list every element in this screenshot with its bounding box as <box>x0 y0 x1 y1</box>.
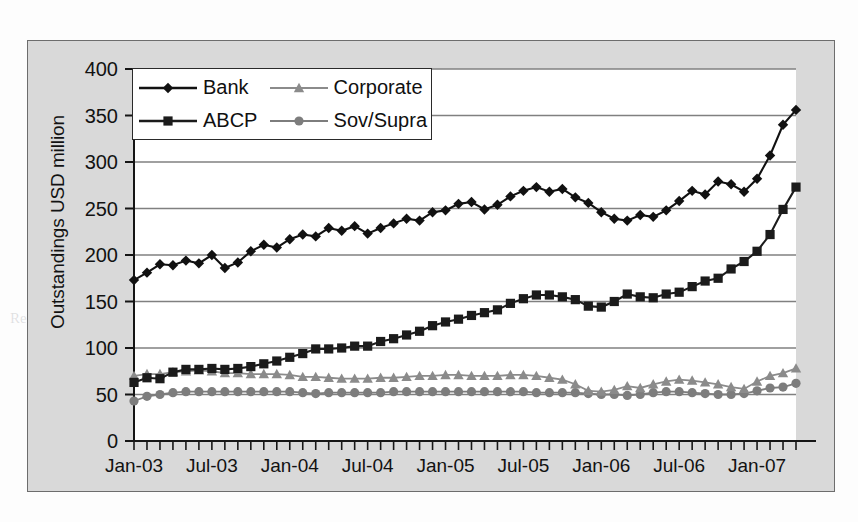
data-marker <box>311 389 320 398</box>
data-marker <box>493 305 502 314</box>
data-marker <box>272 387 281 396</box>
y-tick-label: 200 <box>48 244 118 267</box>
data-marker <box>649 293 658 302</box>
data-marker <box>163 82 173 92</box>
x-tick-label: Jul-03 <box>186 455 238 477</box>
y-tick-label: 250 <box>48 197 118 220</box>
data-marker <box>765 383 774 392</box>
data-marker <box>714 274 723 283</box>
data-marker <box>350 388 359 397</box>
data-marker <box>376 388 385 397</box>
data-marker <box>506 387 515 396</box>
y-tick-label: 0 <box>48 430 118 453</box>
data-marker <box>441 317 450 326</box>
data-marker <box>259 387 268 396</box>
data-marker <box>467 387 476 396</box>
data-marker <box>467 311 476 320</box>
y-tick-label: 50 <box>48 383 118 406</box>
data-marker <box>597 302 606 311</box>
data-marker <box>701 389 710 398</box>
data-marker <box>246 362 255 371</box>
data-marker <box>610 297 619 306</box>
data-marker <box>181 365 190 374</box>
data-marker <box>155 390 164 399</box>
data-marker <box>415 387 424 396</box>
data-marker <box>480 387 489 396</box>
data-marker <box>493 387 502 396</box>
data-marker <box>675 387 684 396</box>
data-marker <box>545 290 554 299</box>
circle-marker-icon <box>268 112 330 130</box>
data-marker <box>220 387 229 396</box>
data-marker <box>636 292 645 301</box>
data-marker <box>623 391 632 400</box>
data-marker <box>519 387 528 396</box>
data-marker <box>272 356 281 365</box>
x-tick-label: Jan-06 <box>572 455 630 477</box>
data-marker <box>181 387 190 396</box>
y-tick-label: 300 <box>48 151 118 174</box>
data-marker <box>337 343 346 352</box>
data-marker <box>714 390 723 399</box>
data-marker <box>168 388 177 397</box>
chart-legend: BankCorporateABCPSov/Supra <box>132 68 432 140</box>
data-marker <box>571 388 580 397</box>
data-marker <box>142 392 151 401</box>
data-marker <box>246 387 255 396</box>
data-marker <box>311 344 320 353</box>
data-marker <box>389 334 398 343</box>
legend-entry-abcp: ABCP <box>137 109 268 132</box>
data-marker <box>415 327 424 336</box>
x-tick-label: Jan-03 <box>105 455 163 477</box>
x-tick-label: Jul-04 <box>342 455 394 477</box>
data-marker <box>584 302 593 311</box>
data-marker <box>752 386 761 395</box>
data-marker <box>688 282 697 291</box>
page-root: structure may not attract... because the… <box>0 0 858 522</box>
data-marker <box>701 276 710 285</box>
data-marker <box>207 364 216 373</box>
data-marker <box>649 388 658 397</box>
data-marker <box>298 388 307 397</box>
legend-label: Bank <box>203 76 249 99</box>
data-marker <box>778 382 787 391</box>
data-marker <box>662 387 671 396</box>
x-tick-label: Jan-04 <box>261 455 319 477</box>
data-marker <box>233 364 242 373</box>
triangle-marker-icon <box>268 79 330 97</box>
y-tick-label: 350 <box>48 104 118 127</box>
data-marker <box>519 294 528 303</box>
data-marker <box>545 388 554 397</box>
data-marker <box>558 292 567 301</box>
data-marker <box>726 264 735 273</box>
data-marker <box>350 342 359 351</box>
data-marker <box>662 289 671 298</box>
y-tick-label: 400 <box>48 58 118 81</box>
data-marker <box>506 299 515 308</box>
data-marker <box>571 295 580 304</box>
data-marker <box>285 387 294 396</box>
diamond-marker-icon <box>137 79 199 97</box>
data-marker <box>194 365 203 374</box>
data-marker <box>739 257 748 266</box>
data-marker <box>207 387 216 396</box>
data-marker <box>142 373 151 382</box>
data-marker <box>428 321 437 330</box>
data-marker <box>389 387 398 396</box>
legend-label: Corporate <box>334 76 423 99</box>
data-marker <box>675 288 684 297</box>
x-tick-label: Jan-07 <box>728 455 786 477</box>
data-marker <box>259 359 268 368</box>
data-marker <box>285 353 294 362</box>
data-marker <box>778 205 787 214</box>
data-marker <box>163 116 172 125</box>
data-marker <box>441 387 450 396</box>
legend-label: ABCP <box>203 109 257 132</box>
data-marker <box>233 387 242 396</box>
data-marker <box>194 387 203 396</box>
data-marker <box>558 388 567 397</box>
data-marker <box>155 374 164 383</box>
data-marker <box>298 349 307 358</box>
data-marker <box>220 365 229 374</box>
square-marker-icon <box>137 112 199 130</box>
